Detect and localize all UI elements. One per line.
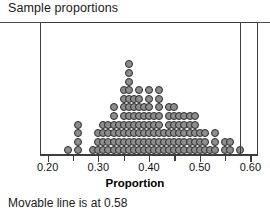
data-dot xyxy=(155,121,163,129)
data-dot xyxy=(125,69,133,77)
data-dot xyxy=(211,129,219,137)
data-dot xyxy=(145,95,153,103)
data-dot xyxy=(74,121,82,129)
data-dot xyxy=(155,112,163,120)
data-dot xyxy=(125,78,133,86)
data-dot xyxy=(64,146,72,154)
dotplot-figure: Sample proportions 0.200.300.400.500.60 … xyxy=(0,0,270,218)
data-dot xyxy=(125,86,133,94)
data-dot xyxy=(145,86,153,94)
data-dot xyxy=(201,129,209,137)
movable-line-readout: Movable line is at 0.58 xyxy=(8,196,127,210)
dot-column xyxy=(74,121,83,155)
data-dot xyxy=(155,95,163,103)
data-dot xyxy=(155,86,163,94)
movable-line[interactable] xyxy=(240,22,241,155)
x-axis-tick-label: 0.20 xyxy=(37,161,58,174)
data-dot xyxy=(125,60,133,68)
data-dot xyxy=(201,138,209,146)
data-dot xyxy=(211,146,219,154)
data-dot xyxy=(226,138,234,146)
x-axis-minor-tick xyxy=(124,155,125,161)
data-dot xyxy=(191,112,199,120)
plot-canvas[interactable] xyxy=(40,22,258,155)
data-dot xyxy=(74,138,82,146)
data-dot xyxy=(110,103,118,111)
data-dot xyxy=(155,103,163,111)
panel-title: Sample proportions xyxy=(8,1,118,15)
data-dot xyxy=(170,103,178,111)
data-dot xyxy=(211,138,219,146)
x-axis-minor-tick xyxy=(73,155,74,161)
dot-column xyxy=(63,146,72,155)
x-axis-tick-label: 0.50 xyxy=(189,161,210,174)
data-dot xyxy=(74,129,82,137)
data-dot xyxy=(135,95,143,103)
dot-column xyxy=(210,129,219,155)
x-axis-minor-tick xyxy=(174,155,175,161)
data-dot xyxy=(145,103,153,111)
data-dot xyxy=(226,146,234,154)
x-axis-tick-label: 0.30 xyxy=(88,161,109,174)
x-axis-tick-label: 0.40 xyxy=(138,161,159,174)
data-dot xyxy=(110,112,118,120)
data-dot xyxy=(135,86,143,94)
x-axis-title: Proportion xyxy=(0,177,270,189)
dot-column xyxy=(226,138,235,155)
data-dot xyxy=(74,146,82,154)
data-dot xyxy=(191,121,199,129)
x-axis-tick-label: 0.60 xyxy=(240,161,261,174)
x-axis-minor-tick xyxy=(225,155,226,161)
